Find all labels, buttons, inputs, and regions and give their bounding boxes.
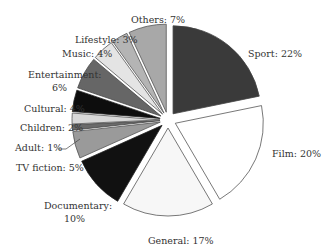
label-sport: Sport: 22% bbox=[248, 48, 302, 59]
label-documentary-line1: Documentary: bbox=[44, 200, 112, 211]
label-music: Music: 4% bbox=[62, 48, 112, 59]
label-general: General: 17% bbox=[148, 235, 214, 246]
label-cultural: Cultural: 4% bbox=[24, 103, 85, 114]
label-children: Children: 2% bbox=[20, 122, 83, 133]
label-entertainment-line1: Entertainment: bbox=[28, 69, 101, 80]
slice-sport bbox=[173, 26, 259, 114]
label-entertainment-line2: 6% bbox=[52, 82, 67, 93]
pie-chart: Sport: 22% Film: 20% General: 17% Docume… bbox=[0, 0, 335, 252]
label-adult: Adult: 1% bbox=[14, 142, 62, 153]
label-others: Others: 7% bbox=[131, 14, 185, 25]
label-tv-fiction: TV fiction: 5% bbox=[16, 162, 84, 173]
label-lifestyle: Lifestyle: 3% bbox=[75, 34, 138, 45]
label-documentary-line2: 10% bbox=[64, 213, 85, 224]
label-film: Film: 20% bbox=[272, 148, 321, 159]
